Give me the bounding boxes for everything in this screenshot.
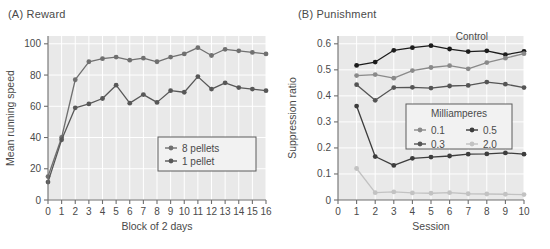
data-point	[522, 152, 527, 157]
x-tick-label: 3	[391, 206, 397, 217]
x-tick-label: 5	[113, 206, 119, 217]
data-point	[127, 58, 132, 63]
x-tick-label: 8	[484, 206, 490, 217]
y-tick-label: 20	[30, 163, 42, 174]
y-tick-label: 0.4	[317, 90, 331, 101]
data-point	[264, 52, 269, 57]
data-point	[59, 137, 64, 142]
data-point	[209, 53, 214, 58]
data-point	[466, 191, 471, 196]
data-point	[155, 59, 160, 64]
data-point	[73, 105, 78, 110]
x-tick-label: 7	[465, 206, 471, 217]
y-tick-label: 60	[30, 101, 42, 112]
data-point	[86, 102, 91, 107]
x-tick-label: 4	[100, 206, 106, 217]
legend-label: 0.3	[431, 139, 445, 150]
data-point	[236, 85, 241, 90]
legend-title: Milliamperes	[431, 108, 487, 119]
panel-reward: (A) Reward 02040608010001234567891011121…	[0, 0, 280, 249]
data-point	[391, 48, 396, 53]
data-point	[209, 87, 214, 92]
data-point	[141, 92, 146, 97]
x-axis-title: Block of 2 days	[121, 220, 192, 232]
data-point	[410, 85, 415, 90]
legend-marker-dot	[169, 159, 174, 164]
y-tick-label: 0	[35, 195, 41, 206]
y-tick-label: 0.3	[317, 116, 331, 127]
figure-container: (A) Reward 02040608010001234567891011121…	[0, 0, 550, 249]
x-tick-label: 6	[127, 206, 133, 217]
x-tick-label: 8	[154, 206, 160, 217]
data-point	[484, 60, 489, 65]
y-tick-label: 0.1	[317, 168, 331, 179]
data-point	[522, 51, 527, 56]
data-point	[168, 88, 173, 93]
legend-marker-dot	[470, 128, 475, 133]
data-point	[447, 154, 452, 159]
data-point	[354, 166, 359, 171]
x-tick-label: 10	[179, 206, 191, 217]
data-point	[114, 55, 119, 60]
data-point	[127, 101, 132, 106]
data-point	[182, 90, 187, 95]
x-tick-label: 0	[335, 206, 341, 217]
x-tick-label: 15	[247, 206, 259, 217]
data-point	[250, 87, 255, 92]
data-point	[391, 190, 396, 195]
y-axis-title: Mean running speed	[4, 70, 16, 166]
punishment-chart-svg: 0.10.20.30.40.50.60012345678910SessionSu…	[276, 0, 550, 249]
x-tick-label: 3	[86, 206, 92, 217]
x-tick-label: 13	[220, 206, 232, 217]
data-point	[391, 85, 396, 90]
reward-chart-svg: 020406080100012345678910111213141516Bloc…	[0, 0, 280, 249]
data-point	[86, 59, 91, 64]
x-tick-label: 9	[168, 206, 174, 217]
data-point	[484, 192, 489, 197]
x-tick-label: 6	[447, 206, 453, 217]
data-point	[373, 60, 378, 65]
data-point	[354, 104, 359, 109]
data-point	[429, 191, 434, 196]
x-tick-label: 0	[45, 206, 51, 217]
data-point	[522, 85, 527, 90]
data-point	[484, 80, 489, 85]
data-point	[391, 76, 396, 81]
legend-marker-dot	[418, 128, 423, 133]
x-tick-label: 11	[193, 206, 204, 217]
legend-reward[interactable]: 8 pellets1 pellet	[158, 137, 256, 171]
data-point	[100, 56, 105, 61]
data-point	[429, 65, 434, 70]
x-tick-label: 9	[503, 206, 509, 217]
x-tick-label: 1	[59, 206, 65, 217]
x-tick-label: 12	[206, 206, 218, 217]
legend-punishment[interactable]: Milliamperes0.10.50.32.0	[406, 104, 512, 150]
legend-label: 0.5	[483, 125, 497, 136]
x-tick-label: 14	[233, 206, 245, 217]
data-point	[223, 80, 228, 85]
data-point	[503, 150, 508, 155]
data-point	[522, 192, 527, 197]
data-point	[141, 56, 146, 61]
data-point	[429, 43, 434, 48]
data-point	[484, 48, 489, 53]
data-point	[447, 47, 452, 52]
data-point	[447, 190, 452, 195]
data-point	[447, 84, 452, 89]
data-point	[466, 66, 471, 71]
y-tick-label: 0	[325, 195, 331, 206]
data-point	[114, 83, 119, 88]
data-point	[168, 55, 173, 60]
legend-marker-dot	[169, 146, 174, 151]
data-point	[354, 73, 359, 78]
y-tick-label: 80	[30, 70, 42, 81]
legend-marker-dot	[470, 142, 475, 147]
x-tick-label: 4	[410, 206, 416, 217]
data-point	[429, 86, 434, 91]
data-point	[373, 98, 378, 103]
x-tick-label: 1	[354, 206, 360, 217]
y-tick-label: 0.5	[317, 64, 331, 75]
x-tick-label: 10	[518, 206, 530, 217]
data-point	[484, 152, 489, 157]
y-tick-label: 0.6	[317, 38, 331, 49]
